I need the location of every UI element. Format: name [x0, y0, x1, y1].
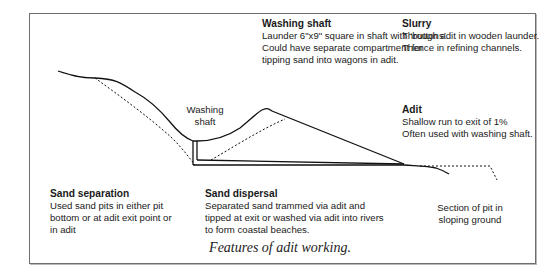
annotation-line: Separated sand trammed via adit and — [205, 200, 384, 212]
pit-slope-dashed-line — [95, 78, 195, 165]
label-line: sloping ground — [420, 214, 520, 226]
annotation-sand-dispersal: Sand dispersal Separated sand trammed vi… — [205, 188, 384, 236]
hill-surface-line — [197, 109, 404, 164]
label-line: Washing — [182, 104, 228, 116]
annotation-adit: Adit Shallow run to exit of 1% Often use… — [402, 104, 533, 140]
annotation-line: tipped at exit or washed via adit into r… — [205, 212, 384, 224]
annotation-line: Shallow run to exit of 1% — [402, 116, 533, 128]
annotation-line: to form coastal beaches. — [205, 224, 384, 236]
adit-floor-line — [193, 165, 449, 174]
label-line: shaft — [182, 116, 228, 128]
label-section-of-pit: Section of pit in sloping ground — [420, 202, 520, 226]
annotation-sand-separation: Sand separation Used sand pits in either… — [50, 188, 172, 236]
label-line: Section of pit in — [420, 202, 520, 214]
annotation-line: bottom or at adit exit point or — [50, 212, 172, 224]
annotation-title: Sand separation — [50, 188, 172, 200]
annotation-slurry: Slurry Through adit in wooden launder. T… — [402, 18, 539, 54]
annotation-title: Adit — [402, 104, 533, 116]
annotation-line: Thence in refining channels. — [402, 42, 539, 54]
annotation-title: Sand dispersal — [205, 188, 384, 200]
annotation-line: Used sand pits in either pit — [50, 200, 172, 212]
ground-surface-line — [58, 71, 197, 141]
label-washing-shaft: Washing shaft — [182, 104, 228, 128]
annotation-title: Slurry — [402, 18, 539, 30]
adit-exit-dashed-line — [420, 166, 497, 180]
annotation-line: in adit — [50, 224, 172, 236]
annotation-line: tipping sand into wagons in adit. — [262, 54, 446, 66]
annotation-line: Through adit in wooden launder. — [402, 30, 539, 42]
annotation-line: Often used with washing shaft. — [402, 128, 533, 140]
figure-caption: Features of adit working. — [0, 240, 560, 256]
adit-roof-line — [197, 160, 404, 164]
